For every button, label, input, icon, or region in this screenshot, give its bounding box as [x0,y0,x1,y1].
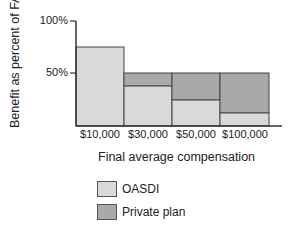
legend-swatch-private-plan [97,204,117,220]
bar-10000 [76,47,124,126]
bar-30000 [124,73,172,126]
legend-swatch-oasdi [97,181,117,197]
x-tick-50000: $50,000 [168,128,224,140]
bar-50000 [172,73,220,126]
x-tick-100000: $100,000 [217,128,273,140]
chart-plot [0,0,298,236]
legend-label-oasdi: OASDI [122,182,159,196]
x-axis-label: Final average compensation [98,150,255,164]
bar-100000 [220,73,269,126]
legend-label-private-plan: Private plan [122,205,185,219]
